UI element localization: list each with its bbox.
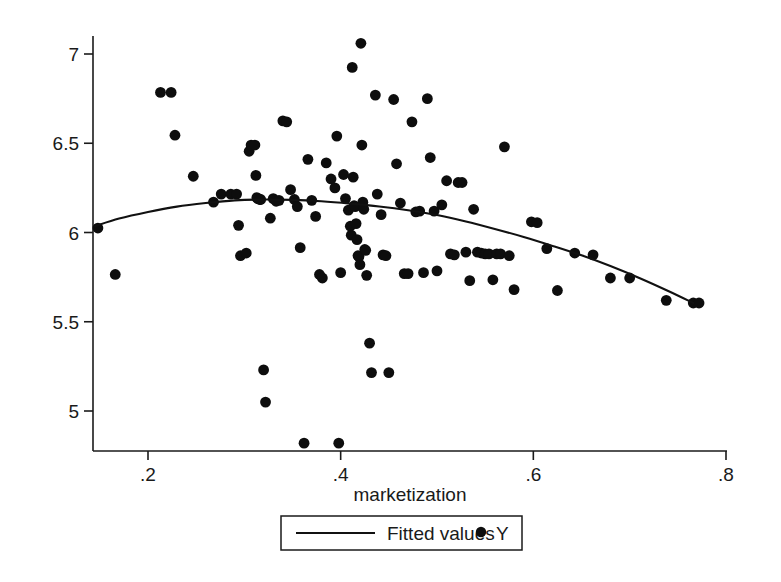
x-tick-label-3: .8 bbox=[718, 464, 734, 485]
scatter-marker-group bbox=[93, 38, 705, 449]
y-tick-label-2: 6 bbox=[68, 223, 79, 244]
chart-canvas: 55.566.57 .2.4.6.8 marketization Fitted … bbox=[0, 0, 781, 582]
scatter-point bbox=[461, 247, 472, 258]
scatter-point bbox=[436, 199, 447, 210]
scatter-point bbox=[499, 141, 510, 152]
scatter-point bbox=[258, 365, 269, 376]
scatter-point bbox=[170, 130, 181, 141]
scatter-point bbox=[231, 189, 242, 200]
scatter-point bbox=[335, 267, 346, 278]
scatter-point bbox=[281, 116, 292, 127]
scatter-point bbox=[395, 198, 406, 209]
scatter-point bbox=[155, 87, 166, 98]
y-tick-label-1: 5.5 bbox=[53, 312, 79, 333]
scatter-point bbox=[694, 298, 705, 309]
scatter-point bbox=[661, 295, 672, 306]
scatter-point bbox=[265, 213, 276, 224]
scatter-point bbox=[351, 218, 362, 229]
scatter-point bbox=[355, 259, 366, 270]
scatter-point bbox=[464, 275, 475, 286]
scatter-point bbox=[605, 273, 616, 284]
x-tick-label-group: .2.4.6.8 bbox=[140, 464, 734, 485]
scatter-point bbox=[356, 38, 367, 49]
scatter-point bbox=[407, 116, 418, 127]
scatter-point bbox=[441, 175, 452, 186]
scatter-point bbox=[366, 367, 377, 378]
scatter-point bbox=[422, 93, 433, 104]
scatter-point bbox=[348, 172, 359, 183]
scatter-point bbox=[285, 184, 296, 195]
y-tick-label-group: 55.566.57 bbox=[53, 44, 79, 422]
scatter-plot-figure: 55.566.57 .2.4.6.8 marketization Fitted … bbox=[0, 0, 781, 582]
scatter-point bbox=[432, 265, 443, 276]
scatter-point bbox=[403, 268, 414, 279]
scatter-point bbox=[372, 189, 383, 200]
scatter-point bbox=[360, 245, 371, 256]
scatter-point bbox=[532, 217, 543, 228]
scatter-point bbox=[250, 170, 261, 181]
scatter-point bbox=[352, 234, 363, 245]
scatter-point bbox=[347, 62, 358, 73]
scatter-point bbox=[364, 338, 375, 349]
scatter-point bbox=[166, 87, 177, 98]
scatter-point bbox=[292, 201, 303, 212]
scatter-point bbox=[425, 152, 436, 163]
scatter-point bbox=[317, 273, 328, 284]
scatter-point bbox=[241, 248, 252, 259]
scatter-point bbox=[388, 94, 399, 105]
scatter-point bbox=[468, 204, 479, 215]
x-tick-group bbox=[148, 451, 726, 460]
y-tick-label-0: 5 bbox=[68, 401, 79, 422]
fitted-values-line bbox=[95, 199, 693, 303]
scatter-point bbox=[418, 267, 429, 278]
scatter-point bbox=[391, 158, 402, 169]
scatter-point bbox=[449, 249, 460, 260]
scatter-point bbox=[333, 438, 344, 449]
scatter-point bbox=[299, 438, 310, 449]
x-tick-label-1: .4 bbox=[333, 464, 349, 485]
scatter-point bbox=[216, 189, 227, 200]
x-axis: .2.4.6.8 marketization bbox=[93, 451, 734, 505]
scatter-point bbox=[361, 270, 372, 281]
scatter-point bbox=[310, 211, 321, 222]
scatter-point bbox=[233, 220, 244, 231]
scatter-point bbox=[250, 140, 261, 151]
scatter-point bbox=[331, 131, 342, 142]
scatter-point bbox=[383, 367, 394, 378]
scatter-point bbox=[487, 274, 498, 285]
scatter-point bbox=[356, 140, 367, 151]
x-axis-title: marketization bbox=[354, 484, 467, 505]
scatter-point bbox=[370, 90, 381, 101]
scatter-point bbox=[381, 250, 392, 261]
scatter-point bbox=[110, 269, 121, 280]
scatter-point bbox=[321, 157, 332, 168]
legend: Fitted values Y bbox=[281, 516, 522, 550]
scatter-point bbox=[303, 154, 314, 165]
scatter-point bbox=[295, 242, 306, 253]
y-tick-group bbox=[84, 54, 93, 411]
scatter-point bbox=[188, 171, 199, 182]
scatter-point bbox=[504, 250, 515, 261]
y-tick-label-3: 6.5 bbox=[53, 133, 79, 154]
legend-label-y: Y bbox=[496, 523, 509, 544]
scatter-point bbox=[260, 397, 271, 408]
scatter-point bbox=[376, 209, 387, 220]
scatter-point bbox=[509, 284, 520, 295]
y-tick-label-4: 7 bbox=[68, 44, 79, 65]
y-axis: 55.566.57 bbox=[53, 36, 93, 451]
legend-dot-swatch bbox=[476, 527, 486, 537]
scatter-point bbox=[329, 182, 340, 193]
x-tick-label-2: .6 bbox=[525, 464, 541, 485]
scatter-point bbox=[552, 285, 563, 296]
x-tick-label-0: .2 bbox=[140, 464, 156, 485]
scatter-point bbox=[338, 169, 349, 180]
scatter-point bbox=[457, 177, 468, 188]
